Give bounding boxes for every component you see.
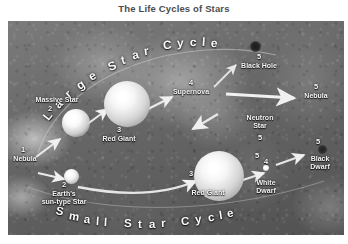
flow-arrows-layer (8, 21, 344, 235)
arrow-white-dwarf-to-black-dwarf (276, 155, 304, 165)
arrow-supernova-to-black-hole (214, 65, 236, 87)
arrow-red-giant-to-supernova (148, 97, 172, 109)
arrow-red-giant-to-white-dwarf (240, 173, 264, 181)
page-title: The Life Cycles of Stars (0, 3, 348, 14)
small-cycle-arc-path (28, 181, 324, 207)
arrow-supernova-to-neutron-star (193, 114, 218, 129)
arrow-sun-type-star-to-red-giant (78, 181, 196, 193)
figure-page: The Life Cycles of Stars (0, 0, 348, 244)
star-life-cycle-diagram: L a r g e S t a r C y c l e S m a l l S … (8, 21, 344, 235)
arrow-nebula-to-sun-type-star (38, 173, 64, 179)
arrow-massive-star-to-red-giant (86, 109, 108, 125)
large-cycle-arc-path (38, 49, 276, 153)
arrow-supernova-to-nebula (226, 94, 294, 98)
